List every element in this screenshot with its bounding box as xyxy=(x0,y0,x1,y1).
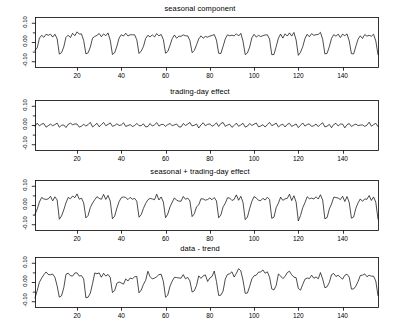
x-tick-label: 120 xyxy=(286,155,310,162)
plot-area-trading-day-effect xyxy=(0,87,400,161)
x-tick-label: 40 xyxy=(109,312,133,319)
y-tick-label: -0.10 xyxy=(22,49,28,71)
panel-seasonal-trading-day-effect: seasonal + trading-day effect-0.100.000.… xyxy=(0,167,400,241)
panel-seasonal-component: seasonal component-0.100.000.10204060801… xyxy=(0,4,400,78)
plot-area-data-trend xyxy=(0,244,400,318)
x-tick-label: 40 xyxy=(109,155,133,162)
x-tick-label: 80 xyxy=(198,312,222,319)
x-tick-label: 60 xyxy=(154,155,178,162)
x-tick-label: 20 xyxy=(65,72,89,79)
plot-box xyxy=(36,18,379,68)
decomposition-figure: seasonal component-0.100.000.10204060801… xyxy=(0,0,400,332)
x-tick-label: 20 xyxy=(65,235,89,242)
x-tick-label: 40 xyxy=(109,235,133,242)
x-tick-label: 60 xyxy=(154,312,178,319)
x-tick-label: 100 xyxy=(242,155,266,162)
series-line-seasonal-trading-day-effect xyxy=(35,194,378,221)
series-line-trading-day-effect xyxy=(35,122,378,128)
x-tick-label: 20 xyxy=(65,155,89,162)
x-tick-label: 40 xyxy=(109,72,133,79)
x-tick-label: 120 xyxy=(286,312,310,319)
series-line-data-trend xyxy=(35,269,378,298)
plot-box xyxy=(36,181,379,231)
y-tick-label: 0.10 xyxy=(22,11,28,33)
x-tick-label: 80 xyxy=(198,72,222,79)
x-tick-label: 120 xyxy=(286,72,310,79)
plot-area-seasonal-component xyxy=(0,4,400,78)
y-tick-label: -0.10 xyxy=(22,289,28,311)
y-tick-label: 0.00 xyxy=(22,270,28,292)
x-tick-label: 120 xyxy=(286,235,310,242)
x-tick-label: 80 xyxy=(198,155,222,162)
x-tick-label: 140 xyxy=(331,235,355,242)
x-tick-label: 140 xyxy=(331,155,355,162)
x-tick-label: 100 xyxy=(242,235,266,242)
x-tick-label: 20 xyxy=(65,312,89,319)
y-tick-label: -0.10 xyxy=(22,132,28,154)
plot-box xyxy=(36,258,379,308)
plot-area-seasonal-trading-day-effect xyxy=(0,167,400,241)
y-tick-label: 0.00 xyxy=(22,113,28,135)
x-tick-label: 100 xyxy=(242,312,266,319)
y-tick-label: 0.10 xyxy=(22,94,28,116)
panel-trading-day-effect: trading-day effect-0.100.000.10204060801… xyxy=(0,87,400,161)
x-tick-label: 100 xyxy=(242,72,266,79)
series-line-seasonal-component xyxy=(35,32,378,56)
y-tick-label: 0.10 xyxy=(22,251,28,273)
panel-data-trend: data - trend-0.100.000.10204060801001201… xyxy=(0,244,400,318)
x-tick-label: 80 xyxy=(198,235,222,242)
y-tick-label: 0.00 xyxy=(22,193,28,215)
x-tick-label: 140 xyxy=(331,312,355,319)
y-tick-label: 0.00 xyxy=(22,30,28,52)
x-tick-label: 60 xyxy=(154,235,178,242)
x-tick-label: 60 xyxy=(154,72,178,79)
y-tick-label: -0.10 xyxy=(22,212,28,234)
x-tick-label: 140 xyxy=(331,72,355,79)
y-tick-label: 0.10 xyxy=(22,174,28,196)
